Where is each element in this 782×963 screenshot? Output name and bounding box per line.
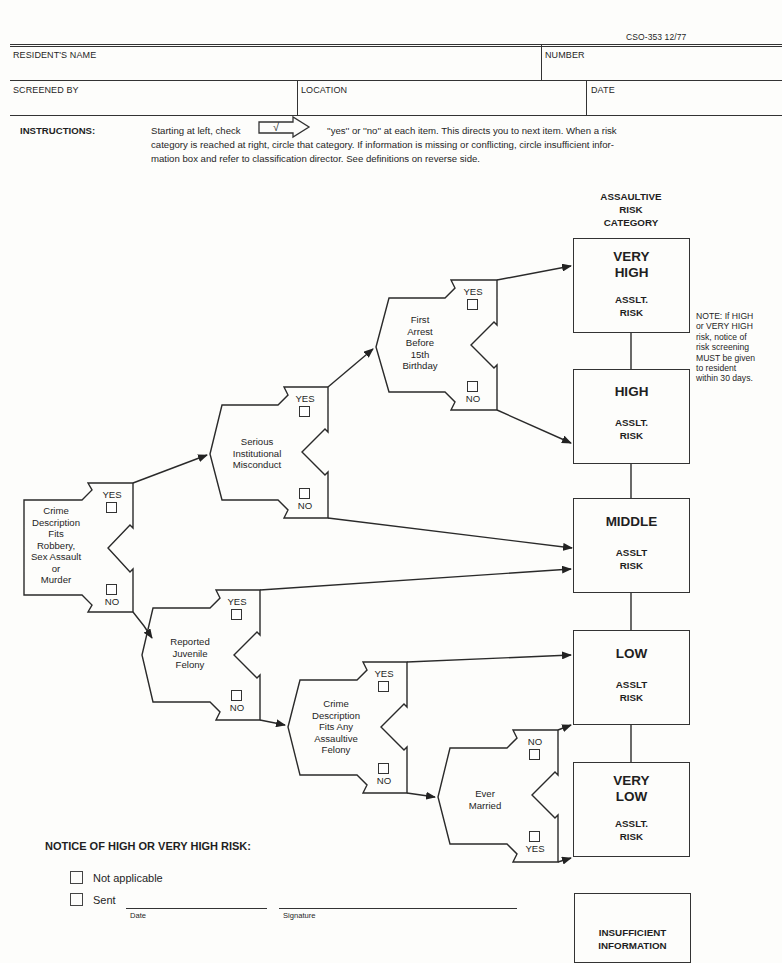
node-text-line: Robbery, [26, 540, 86, 552]
option-label-no: NO [100, 596, 124, 607]
not-applicable-label: Not applicable [93, 872, 163, 884]
option-label-yes: YES [520, 843, 550, 854]
node-text-line: Description [26, 517, 86, 529]
risk-title: VERY [574, 773, 689, 789]
node-text-line: Reported [160, 636, 220, 648]
node-text-line: Arrest [390, 326, 450, 338]
node-text-line: Ever [460, 788, 510, 800]
node-text-line: Misconduct [222, 459, 292, 471]
note-line: risk, notice of [696, 332, 755, 342]
option-label-no: NO [523, 736, 547, 747]
checkbox-juvenile-felony-yes[interactable] [231, 609, 242, 620]
node-text-line: Sex Assault [26, 551, 86, 563]
checkbox-assaultive-felony-yes[interactable] [378, 681, 389, 692]
risk-sub: ASSLT [574, 678, 689, 691]
note-line: NOTE: If HIGH [696, 311, 755, 321]
node-text-line: Fits Any [303, 721, 369, 733]
option-label-no: NO [225, 702, 249, 713]
option-label-yes: YES [293, 393, 317, 404]
node-assaultive-felony: Crime Description Fits Any Assaultive Fe… [303, 698, 369, 756]
checkbox-first-arrest-no[interactable] [467, 381, 478, 392]
risk-title: LOW [574, 646, 689, 662]
node-text-line: Before [390, 337, 450, 349]
note-line: to resident [696, 363, 755, 373]
node-juvenile-felony: Reported Juvenile Felony [160, 636, 220, 671]
risk-sub: RISK [574, 429, 689, 442]
notice-title: NOTICE OF HIGH OR VERY HIGH RISK: [45, 840, 251, 852]
option-label-yes: YES [225, 596, 249, 607]
risk-title: INSUFFICIENT [575, 926, 690, 939]
node-text-line: Description [303, 710, 369, 722]
signature-caption: Signature [283, 911, 316, 920]
node-text-line: Assaultive [303, 733, 369, 745]
sent-label: Sent [93, 894, 116, 906]
risk-title: MIDDLE [574, 514, 689, 530]
node-text-line: Juvenile [160, 648, 220, 660]
risk-sub: ASSLT [574, 546, 689, 559]
node-text-line: Institutional [222, 448, 292, 460]
option-label-yes: YES [372, 668, 396, 679]
risk-sub: RISK [574, 559, 689, 572]
risk-box-very-low[interactable]: VERY LOW ASSLT. RISK [573, 762, 690, 857]
node-text-line: Birthday [390, 360, 450, 372]
risk-box-high[interactable]: HIGH ASSLT. RISK [573, 369, 690, 464]
option-label-no: NO [293, 500, 317, 511]
node-text-line: Crime [26, 505, 86, 517]
risk-sub: RISK [574, 691, 689, 704]
risk-sub: ASSLT. [574, 416, 689, 429]
node-serious-misconduct: Serious Institutional Misconduct [222, 436, 292, 471]
sent-date-line[interactable] [126, 908, 267, 909]
node-crime-description: Crime Description Fits Robbery, Sex Assa… [26, 505, 86, 586]
node-text-line: Murder [26, 574, 86, 586]
risk-title: LOW [574, 789, 689, 805]
risk-box-middle[interactable]: MIDDLE ASSLT RISK [573, 498, 690, 593]
checkbox-first-arrest-yes[interactable] [467, 299, 478, 310]
signature-line[interactable] [279, 908, 517, 909]
risk-sub: ASSLT. [574, 817, 689, 830]
checkbox-crime-description-yes[interactable] [106, 502, 117, 513]
node-text-line: Serious [222, 436, 292, 448]
option-label-no: NO [461, 393, 485, 404]
node-text-line: or [26, 563, 86, 575]
option-label-yes: YES [461, 286, 485, 297]
note-line: or VERY HIGH [696, 321, 755, 331]
checkbox-juvenile-felony-no[interactable] [231, 690, 242, 701]
node-first-arrest: First Arrest Before 15th Birthday [390, 314, 450, 372]
risk-title: INFORMATION [575, 939, 690, 952]
node-text-line: 15th [390, 349, 450, 361]
risk-title: VERY [574, 249, 689, 265]
risk-title: HIGH [574, 384, 689, 400]
risk-box-insufficient-information[interactable]: INSUFFICIENT INFORMATION [574, 893, 691, 963]
node-text-line: Married [460, 800, 510, 812]
checkbox-assaultive-felony-no[interactable] [378, 763, 389, 774]
node-ever-married: Ever Married [460, 788, 510, 811]
note-line: MUST be given [696, 353, 755, 363]
risk-sub: ASSLT. [574, 293, 689, 306]
note-line: within 30 days. [696, 373, 755, 383]
checkbox-crime-description-no[interactable] [106, 584, 117, 595]
risk-title: HIGH [574, 265, 689, 281]
risk-sub: RISK [574, 306, 689, 319]
not-applicable-checkbox[interactable] [70, 871, 83, 884]
option-label-no: NO [372, 775, 396, 786]
node-text-line: Fits [26, 528, 86, 540]
risk-box-low[interactable]: LOW ASSLT RISK [573, 630, 690, 725]
high-risk-note: NOTE: If HIGH or VERY HIGH risk, notice … [696, 311, 755, 384]
option-label-yes: YES [100, 489, 124, 500]
risk-sub: RISK [574, 830, 689, 843]
note-line: risk screening [696, 342, 755, 352]
node-text-line: Felony [160, 659, 220, 671]
date-caption: Date [130, 911, 146, 920]
checkbox-serious-misconduct-yes[interactable] [299, 406, 310, 417]
checkbox-serious-misconduct-no[interactable] [299, 488, 310, 499]
node-text-line: Crime [303, 698, 369, 710]
node-text-line: Felony [303, 744, 369, 756]
sent-checkbox[interactable] [70, 893, 83, 906]
node-text-line: First [390, 314, 450, 326]
checkbox-ever-married-no[interactable] [529, 749, 540, 760]
checkbox-ever-married-yes[interactable] [529, 831, 540, 842]
risk-box-very-high[interactable]: VERY HIGH ASSLT. RISK [573, 238, 690, 333]
